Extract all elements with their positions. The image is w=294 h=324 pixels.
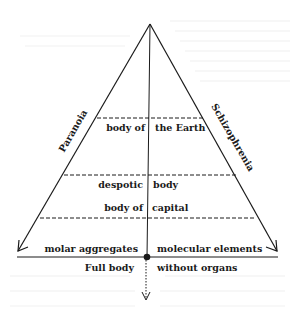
molecular-elements-label: molecular elements xyxy=(157,243,262,254)
full-body-label: Full body xyxy=(85,262,135,273)
layer-2-right-label: body xyxy=(153,179,179,190)
layer-3-left-label: body of xyxy=(104,202,144,213)
central-axis-line xyxy=(147,24,150,257)
without-organs-label: without organs xyxy=(156,262,237,273)
right-side-line xyxy=(150,24,277,251)
molar-aggregates-label: molar aggregates xyxy=(44,243,138,254)
layer-1-left-label: body of xyxy=(106,122,146,133)
left-side-line xyxy=(18,24,150,251)
layer-3-right-label: capital xyxy=(152,202,189,213)
right-side-label: Schizophrenia xyxy=(209,102,257,173)
origin-dot xyxy=(144,254,151,261)
layer-2-left-label: despotic xyxy=(98,179,143,190)
layer-1-right-label: the Earth xyxy=(155,122,205,133)
pyramid-diagram: Paranoia Schizophrenia body of the Earth… xyxy=(0,0,294,324)
left-side-label: Paranoia xyxy=(56,108,89,154)
